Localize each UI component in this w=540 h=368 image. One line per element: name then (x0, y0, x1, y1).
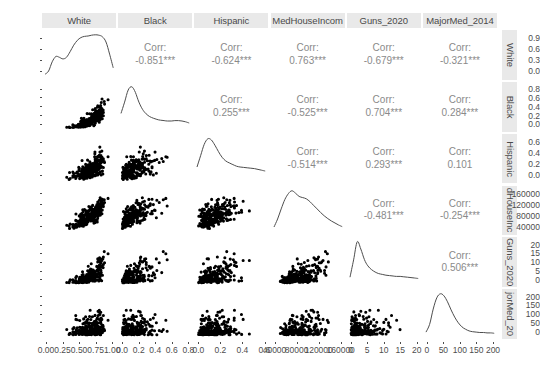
scatter-panel-majormed_2014-vs-guns_2020 (347, 289, 421, 339)
column-header-label: MedHouseIncom (272, 15, 343, 26)
correlation-value: 0.293*** (365, 159, 402, 172)
x-axis-tick-label: 0.6 (166, 345, 178, 355)
correlation-panel-white-hispanic: Corr:-0.624*** (194, 30, 268, 80)
scatter-points (65, 309, 109, 337)
scatter-panel-guns_2020-vs-hispanic (194, 237, 268, 287)
correlation-value: 0.284*** (442, 107, 479, 120)
scatter-points (349, 309, 401, 337)
x-axis-tick-label: 150 (469, 345, 483, 355)
x-axis-tick-mark (139, 342, 140, 344)
scatter-points (278, 309, 329, 337)
correlation-panel-black-medhouseincome: Corr:-0.525*** (271, 82, 345, 132)
y-axis-tick-label: 0.0 (501, 170, 540, 180)
column-header-medhouseincome: MedHouseIncom (271, 13, 345, 28)
column-header-black: Black (118, 13, 192, 28)
x-axis-tick-mark (220, 342, 221, 344)
correlation-panel-white-guns_2020: Corr:-0.679*** (347, 30, 421, 80)
x-axis-tick-mark (63, 342, 64, 344)
x-axis-tick-mark (79, 342, 80, 344)
x-axis-tick-mark (384, 342, 385, 344)
scatter-panel-hispanic-vs-black (118, 134, 192, 184)
density-curve (350, 242, 418, 279)
x-axis-tick-mark (297, 342, 298, 344)
correlation-label: Corr: (296, 94, 318, 107)
x-axis-tick-label: 0.4 (237, 345, 249, 355)
x-axis-tick-label: 5 (365, 345, 370, 355)
x-axis-tick-mark (400, 342, 401, 344)
column-header-majormed_2014: MajorMed_2014 (423, 13, 497, 28)
x-axis-tick-mark (275, 342, 276, 344)
density-curve (121, 87, 189, 123)
scatter-panel-majormed_2014-vs-medhouseincome (271, 289, 345, 339)
y-axis-tick-label: 40000 (501, 222, 540, 232)
correlation-panel-medhouseincome-majormed_2014: Corr:-0.254*** (423, 186, 497, 236)
density-panel-white (42, 30, 116, 80)
scatter-points (197, 309, 251, 337)
scatter-panel-medhouseincome-vs-white (42, 186, 116, 236)
column-header-white: White (42, 13, 116, 28)
scatter-panel-guns_2020-vs-black (118, 237, 192, 287)
x-axis-tick-label: 50 (439, 345, 448, 355)
correlation-label: Corr: (296, 146, 318, 159)
correlation-label: Corr: (449, 94, 471, 107)
correlation-label: Corr: (449, 146, 471, 159)
scatter-points (121, 196, 169, 230)
correlation-label: Corr: (373, 146, 395, 159)
correlation-value: 0.506*** (442, 262, 479, 275)
density-curve (45, 35, 113, 75)
column-header-label: White (67, 15, 91, 26)
correlation-panel-white-medhouseincome: Corr:0.763*** (271, 30, 345, 80)
scatter-panel-medhouseincome-vs-black (118, 186, 192, 236)
x-axis-tick-label: 20 (412, 345, 421, 355)
scatter-points (65, 145, 109, 180)
density-panel-guns_2020 (347, 237, 421, 287)
scatter-points (121, 145, 169, 180)
x-axis-tick-mark (155, 342, 156, 344)
y-axis-tick-label: 120000 (501, 200, 540, 210)
x-axis-tick-mark (493, 342, 494, 344)
x-axis-tick-label: 0.0 (192, 345, 204, 355)
y-axis-tick-label: 0.9 (501, 33, 540, 43)
density-panel-medhouseincome (271, 186, 345, 236)
scatter-panel-majormed_2014-vs-hispanic (194, 289, 268, 339)
x-axis-tick-mark (476, 342, 477, 344)
correlation-value: -0.851*** (135, 55, 175, 68)
correlation-value: -0.254*** (440, 210, 480, 223)
correlation-value: 0.704*** (365, 107, 402, 120)
density-curve (274, 190, 342, 226)
correlation-panel-black-guns_2020: Corr:0.704*** (347, 82, 421, 132)
y-axis-tick-label: 0.6 (501, 44, 540, 54)
scatter-points (65, 196, 109, 230)
correlation-label: Corr: (373, 198, 395, 211)
x-axis-tick-mark (319, 342, 320, 344)
correlation-label: Corr: (449, 198, 471, 211)
scatter-panel-guns_2020-vs-medhouseincome (271, 237, 345, 287)
x-axis-tick-label: 0.75 (87, 345, 104, 355)
correlation-value: -0.321*** (440, 55, 480, 68)
correlation-label: Corr: (296, 42, 318, 55)
correlation-label: Corr: (449, 250, 471, 263)
correlation-label: Corr: (220, 42, 242, 55)
correlation-panel-guns_2020-majormed_2014: Corr:0.506*** (423, 237, 497, 287)
x-axis-tick-mark (46, 342, 47, 344)
correlation-panel-white-black: Corr:-0.851*** (118, 30, 192, 80)
x-axis-tick-label: 10 (379, 345, 388, 355)
correlation-panel-medhouseincome-guns_2020: Corr:-0.481*** (347, 186, 421, 236)
correlation-label: Corr: (144, 42, 166, 55)
correlation-label: Corr: (373, 94, 395, 107)
correlation-value: -0.525*** (288, 107, 328, 120)
correlation-panel-hispanic-majormed_2014: Corr:0.101 (423, 134, 497, 184)
x-axis-tick-mark (242, 342, 243, 344)
correlation-value: -0.481*** (364, 210, 404, 223)
x-axis-tick-label: 200 (486, 345, 500, 355)
correlation-label: Corr: (220, 94, 242, 107)
x-axis-tick-label: 0.2 (214, 345, 226, 355)
y-axis-tick-label: 0 (501, 275, 540, 285)
x-axis-tick-mark (188, 342, 189, 344)
correlation-label: Corr: (449, 42, 471, 55)
correlation-value: 0.101 (447, 159, 472, 172)
x-axis-tick-mark (427, 342, 428, 344)
x-axis-tick-label: 0.0 (116, 345, 128, 355)
x-axis-tick-mark (122, 342, 123, 344)
column-header-label: Guns_2020 (360, 15, 408, 26)
